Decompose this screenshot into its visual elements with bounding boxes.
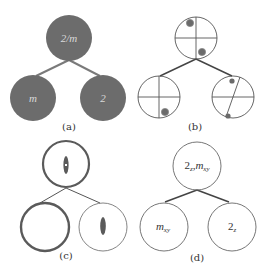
- node-right-text: 2z: [228, 220, 237, 234]
- node-left-text: mxy: [156, 220, 171, 234]
- panel-c: [21, 141, 127, 251]
- two-fold-axis-icon: [100, 217, 106, 235]
- panel-label-a: (a): [62, 121, 76, 132]
- panel-label-c: (c): [59, 250, 73, 261]
- connector-left: [160, 59, 196, 76]
- pole-dot: [225, 113, 230, 118]
- connector-right: [196, 59, 232, 76]
- pole-dot: [186, 19, 193, 26]
- connector-right: [69, 60, 100, 76]
- connector-left: [40, 188, 66, 203]
- figure-canvas: 2/m m 2 (a) (b) (c): [0, 0, 269, 278]
- connector-left: [165, 190, 197, 202]
- panel-a: 2/m m 2 (a): [10, 15, 126, 132]
- node-parent-text: 2/m: [61, 32, 78, 44]
- pole-dot: [161, 108, 168, 115]
- connector-right: [197, 190, 229, 202]
- node-left: [21, 203, 69, 251]
- pole-dot: [198, 48, 205, 55]
- inversion-center-icon: [65, 164, 67, 166]
- pole-dot: [229, 78, 234, 83]
- node-parent-text: 2z,mxy: [184, 159, 210, 173]
- connector-right: [66, 188, 100, 203]
- panel-label-d: (d): [190, 252, 204, 263]
- connector-left: [36, 60, 69, 76]
- panel-label-b: (b): [188, 121, 202, 132]
- panel-b: [138, 17, 254, 119]
- node-left-text: m: [29, 92, 37, 104]
- node-right-text: 2: [100, 92, 106, 104]
